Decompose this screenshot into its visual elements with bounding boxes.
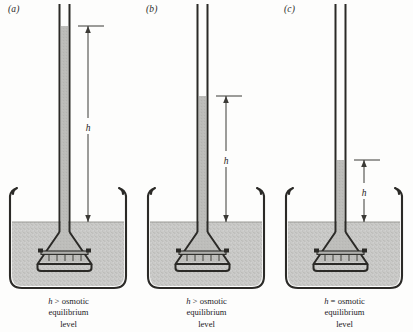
- panel-a-stage: h: [0, 0, 137, 296]
- caption-line-2: equilibrium: [138, 307, 275, 318]
- caption-line-3: level: [276, 319, 413, 330]
- semipermeable-membrane: [179, 251, 226, 254]
- caption-word: osmotic: [200, 296, 227, 306]
- dimension-arrowhead-up: [223, 96, 229, 103]
- caption-relation: >: [55, 296, 60, 306]
- dimension-label-h: h: [86, 123, 91, 133]
- panel-c-diagram: h: [276, 0, 413, 296]
- panel-c: (c): [276, 0, 413, 332]
- panel-a-caption: h > osmotic equilibrium level: [0, 296, 137, 330]
- caption-line-2: equilibrium: [0, 307, 137, 318]
- caption-line-3: level: [138, 319, 275, 330]
- panel-b-diagram: h: [138, 0, 275, 296]
- dimension-arrowhead-down: [223, 215, 229, 222]
- panel-c-caption: h = osmotic equilibrium level: [276, 296, 413, 330]
- semipermeable-membrane: [317, 251, 364, 254]
- solution-column: [61, 26, 68, 231]
- caption-line-1: h > osmotic: [138, 296, 275, 307]
- height-dimension-h: h: [216, 96, 242, 222]
- panel-b-caption: h > osmotic equilibrium level: [138, 296, 275, 330]
- panel-c-stage: h: [276, 0, 413, 296]
- solution-column: [199, 96, 206, 231]
- caption-symbol: h: [186, 296, 190, 306]
- solution-column: [337, 160, 344, 231]
- panel-a-diagram: h: [0, 0, 137, 296]
- caption-word: osmotic: [62, 296, 89, 306]
- height-dimension-h: h: [78, 26, 104, 222]
- dimension-arrowhead-down: [85, 215, 91, 222]
- caption-word: osmotic: [338, 296, 365, 306]
- caption-symbol: h: [48, 296, 52, 306]
- panel-a: (a): [0, 0, 137, 332]
- caption-line-1: h > osmotic: [0, 296, 137, 307]
- panel-b: (b): [138, 0, 275, 332]
- panel-b-stage: h: [138, 0, 275, 296]
- dimension-arrowhead-up: [85, 26, 91, 33]
- height-dimension-h: h: [354, 160, 380, 222]
- caption-line-2: equilibrium: [276, 307, 413, 318]
- semipermeable-membrane: [41, 251, 88, 254]
- dimension-arrowhead-down: [361, 215, 367, 222]
- caption-relation: >: [193, 296, 198, 306]
- caption-line-1: h = osmotic: [276, 296, 413, 307]
- dimension-label-h: h: [224, 156, 229, 166]
- dimension-label-h: h: [362, 188, 367, 198]
- caption-relation: =: [331, 296, 336, 306]
- caption-line-3: level: [0, 319, 137, 330]
- caption-symbol: h: [324, 296, 328, 306]
- dimension-arrowhead-up: [361, 160, 367, 167]
